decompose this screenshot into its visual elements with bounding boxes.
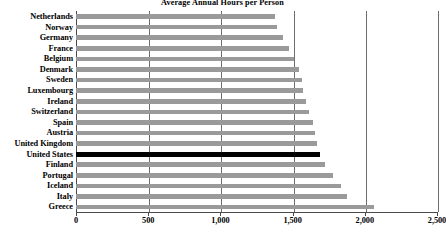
category-label: United States [0,149,73,160]
x-axis-tick [365,212,366,216]
bar-row: Luxembourg [0,85,445,96]
bar [76,46,289,51]
x-tick-label: 2,000 [356,216,374,225]
bar [76,184,341,189]
category-label: Austria [0,127,73,138]
x-tick-label: 1,000 [211,216,229,225]
bar [76,120,313,125]
bar-row: Ireland [0,96,445,107]
bar-row: Denmark [0,64,445,75]
category-label: Sweden [0,74,73,85]
category-label: Norway [0,22,73,33]
bar-rows: NetherlandsNorwayGermanyFranceBelgiumDen… [0,11,445,212]
category-label: United Kingdom [0,138,73,149]
x-tick-label: 2,500 [428,216,446,225]
bar [76,110,309,115]
bar-row: Sweden [0,74,445,85]
bar [76,162,325,167]
bar [76,78,302,83]
x-axis-line [76,212,438,213]
category-label: Iceland [0,180,73,191]
bar-row: France [0,43,445,54]
x-axis-tick [148,212,149,216]
bar [76,25,277,30]
bar-row: Germany [0,32,445,43]
bar [76,57,294,62]
bar-row: United Kingdom [0,138,445,149]
category-label: Italy [0,191,73,202]
bar-row: Portugal [0,170,445,181]
bar [76,205,374,210]
bar [76,194,347,199]
bar-row: Greece [0,201,445,212]
category-label: Denmark [0,64,73,75]
bar [76,141,317,146]
x-axis-tick [76,212,77,216]
bar [76,35,283,40]
chart-title: Average Annual Hours per Person [0,0,445,8]
bar-row: Finland [0,159,445,170]
bar [76,131,315,136]
x-axis-tick-labels: 05001,0001,5002,0002,500 [0,216,445,230]
category-label: Germany [0,32,73,43]
category-label: Greece [0,201,73,212]
category-label: Switzerland [0,106,73,117]
bar [76,88,303,93]
category-label: Spain [0,117,73,128]
category-label: Netherlands [0,11,73,22]
x-tick-label: 1,500 [283,216,301,225]
x-tick-label: 0 [74,216,78,225]
bar-row: Austria [0,127,445,138]
category-label: Luxembourg [0,85,73,96]
category-label: Belgium [0,53,73,64]
category-label: Portugal [0,170,73,181]
x-axis-tick [293,212,294,216]
category-label: France [0,43,73,54]
category-label: Ireland [0,96,73,107]
bar [76,99,306,104]
bar-row: Netherlands [0,11,445,22]
bar [76,14,275,19]
bar-row: Norway [0,22,445,33]
x-axis-tick [220,212,221,216]
bar-row: Iceland [0,180,445,191]
bar-row: Switzerland [0,106,445,117]
bar-row: Belgium [0,53,445,64]
bar-row: United States [0,149,445,160]
x-axis-tick [437,212,438,216]
bar-row: Spain [0,117,445,128]
bar-highlighted [76,152,320,157]
x-tick-label: 500 [142,216,154,225]
bar [76,173,333,178]
bar [76,67,299,72]
category-label: Finland [0,159,73,170]
bar-row: Italy [0,191,445,202]
